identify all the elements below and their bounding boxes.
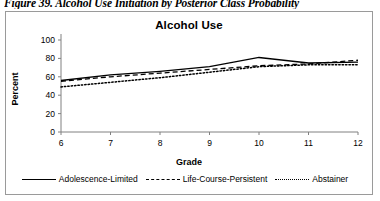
chart-frame: Alcohol Use 0204060801006789101112 Perce… xyxy=(5,11,373,195)
x-tick-label: 6 xyxy=(59,138,64,148)
legend-line-swatch-dashed xyxy=(146,175,180,183)
legend-item[interactable]: Adolescence-Limited xyxy=(22,174,146,184)
plot-area: 0204060801006789101112 Percent Grade xyxy=(6,12,372,194)
x-tick-label: 11 xyxy=(304,138,313,148)
line-chart-svg: 0204060801006789101112 xyxy=(6,12,374,196)
legend-line-swatch-solid xyxy=(22,175,56,183)
data-series xyxy=(61,57,358,86)
axes xyxy=(58,34,358,135)
x-tick-label: 9 xyxy=(207,138,212,148)
x-tick-label: 10 xyxy=(254,138,264,148)
tick-labels: 0204060801006789101112 xyxy=(41,35,363,148)
legend-item[interactable]: Life-Course-Persistent xyxy=(146,174,276,184)
y-tick-label: 0 xyxy=(50,127,55,137)
legend-label: Adolescence-Limited xyxy=(59,174,138,184)
legend-item[interactable]: Abstainer xyxy=(275,174,356,184)
x-axis-title: Grade xyxy=(6,157,372,167)
y-tick-label: 60 xyxy=(46,72,56,82)
y-tick-label: 100 xyxy=(41,35,55,45)
legend-line-swatch-dotted xyxy=(275,175,309,183)
y-tick-label: 80 xyxy=(46,53,56,63)
legend-label: Life-Course-Persistent xyxy=(183,174,268,184)
legend-label: Abstainer xyxy=(312,174,348,184)
y-tick-label: 20 xyxy=(46,109,56,119)
y-axis-title: Percent xyxy=(10,61,20,117)
x-tick-label: 12 xyxy=(353,138,363,148)
y-tick-label: 40 xyxy=(46,90,56,100)
figure-caption: Figure 39. Alcohol Use Initiation by Pos… xyxy=(4,0,380,9)
x-tick-label: 7 xyxy=(108,138,113,148)
x-tick-label: 8 xyxy=(158,138,163,148)
chart-legend: Adolescence-LimitedLife-Course-Persisten… xyxy=(6,174,372,184)
